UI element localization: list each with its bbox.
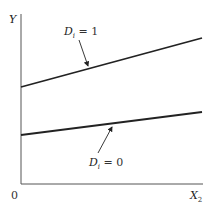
line-d-equals-0 [21,112,202,135]
dummy-variable-diagram: Y 0 X2 Di = 1 Di = 0 [0,0,218,212]
origin-label: 0 [11,189,18,202]
arrow-d-equals-0 [98,127,112,153]
y-axis-label: Y [9,13,18,26]
label-d-equals-1: Di = 1 [63,25,98,40]
label-d-equals-0: Di = 0 [88,156,123,171]
line-d-equals-1 [21,38,202,87]
x-axis-label: X2 [189,189,202,204]
arrow-d-equals-1 [79,40,88,66]
